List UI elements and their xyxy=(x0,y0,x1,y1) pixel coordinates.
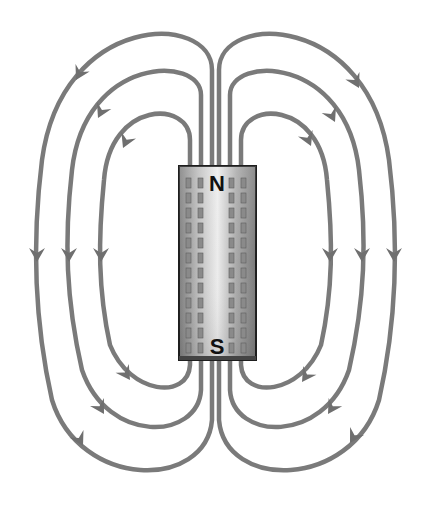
bar-magnet-field-diagram: N S xyxy=(0,0,438,509)
south-pole-label: S xyxy=(210,334,225,359)
bar-magnet: N S xyxy=(179,166,256,360)
left-arrowheads xyxy=(29,64,137,450)
north-pole-label: N xyxy=(209,171,225,196)
field-line-left-inner xyxy=(100,114,190,388)
